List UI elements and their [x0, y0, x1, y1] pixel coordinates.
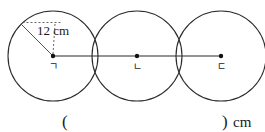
answer-open-paren: ( — [62, 112, 68, 131]
geometry-figure: 12 cm ㄱ ㄴ ㄷ ( ) cm — [0, 0, 265, 132]
center-label-digeut: ㄷ — [217, 61, 226, 72]
center-dot-digeut — [219, 54, 223, 58]
center-dot-giyeok — [51, 54, 55, 58]
answer-unit-label: cm — [233, 114, 252, 130]
center-dot-nieun — [135, 54, 139, 58]
radius-label: 12 cm — [37, 23, 69, 38]
center-label-giyeok: ㄱ — [49, 61, 58, 72]
center-label-nieun: ㄴ — [133, 61, 142, 72]
answer-close-paren: ) — [222, 112, 228, 131]
circles-diagram: 12 cm ㄱ ㄴ ㄷ ( ) cm — [0, 0, 265, 132]
